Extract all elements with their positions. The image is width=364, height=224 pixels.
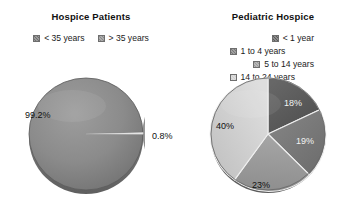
right-pie-label-under-1-year: 18% <box>284 98 302 108</box>
left-pie-label-major: 99.2% <box>25 110 51 120</box>
legend-item-5-to-14-years: 5 to 14 years <box>223 59 323 70</box>
legend-label: < 35 years <box>44 33 84 44</box>
legend-item-over-35: > 35 years <box>98 33 149 44</box>
legend-label: > 35 years <box>109 33 149 44</box>
dual-pie-chart-figure: Hospice Patients < 35 years > 35 years <box>0 0 364 224</box>
right-pie-label-5-to-14-years: 23% <box>252 180 270 190</box>
left-pie-label-minor: 0.8% <box>152 131 173 141</box>
left-chart-title: Hospice Patients <box>0 11 182 22</box>
legend-item-under-35: < 35 years <box>33 33 84 44</box>
legend-swatch-icon <box>98 35 105 42</box>
legend-swatch-icon <box>253 61 260 68</box>
legend-item-under-1-year: < 1 year <box>223 33 323 44</box>
legend-label: 1 to 4 years <box>241 46 286 57</box>
legend-swatch-icon <box>272 35 279 42</box>
legend-swatch-icon <box>33 35 40 42</box>
right-pie-label-1-to-4-years: 19% <box>296 136 314 146</box>
left-chart-legend: < 35 years > 35 years <box>0 33 182 44</box>
pediatric-hospice-panel: Pediatric Hospice < 1 year 1 to 4 years … <box>182 0 364 224</box>
legend-label: < 1 year <box>283 33 314 44</box>
right-pie-label-14-to-24-years: 40% <box>216 121 234 131</box>
left-pie-graphic <box>27 72 145 196</box>
right-pie-graphic <box>207 74 329 196</box>
legend-label: 5 to 14 years <box>264 59 314 70</box>
hospice-patients-panel: Hospice Patients < 35 years > 35 years <box>0 0 182 224</box>
legend-item-1-to-4-years: 1 to 4 years <box>226 46 321 57</box>
right-chart-title: Pediatric Hospice <box>182 11 364 22</box>
legend-swatch-icon <box>230 48 237 55</box>
